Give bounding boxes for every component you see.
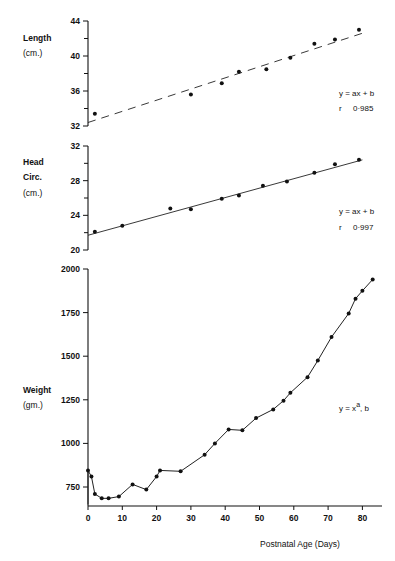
r-value: 0·997 — [353, 223, 374, 232]
x-tick-label: 60 — [289, 513, 299, 523]
x-tick-label: 20 — [152, 513, 162, 523]
length-panel: 32364044Length(cm.)y = ax + br0·985 — [23, 16, 375, 131]
head_circumference-data-point — [357, 158, 361, 162]
weight-data-point — [347, 311, 351, 315]
equation-label: y = ax + b — [339, 207, 375, 216]
y-tick-label: 750 — [66, 482, 80, 492]
y-tick-label: 1500 — [61, 351, 80, 361]
x-tick-label: 80 — [358, 513, 368, 523]
x-axis-title: Postnatal Age (Days) — [260, 539, 340, 549]
length-data-point — [264, 67, 268, 71]
head_circumference-data-point — [120, 224, 124, 228]
y-tick-label: 32 — [71, 141, 81, 151]
y-axis-label: Head — [23, 157, 44, 167]
weight-data-point — [86, 468, 90, 472]
y-axis-label: (gm.) — [23, 400, 43, 410]
length-data-point — [220, 81, 224, 85]
weight-data-point — [371, 277, 375, 281]
y-axis-label: Circ. — [23, 172, 42, 182]
r-label: r — [339, 223, 342, 232]
weight-data-point — [117, 495, 121, 499]
length-data-point — [93, 112, 97, 116]
length-data-point — [312, 42, 316, 46]
weight-data-point — [158, 468, 162, 472]
weight-data-point — [93, 492, 97, 496]
weight-data-point — [155, 475, 159, 479]
y-tick-label: 24 — [71, 210, 81, 220]
x-tick-label: 50 — [255, 513, 265, 523]
length-fit-line — [88, 33, 362, 122]
y-tick-label: 20 — [71, 245, 81, 255]
weight-data-point — [227, 427, 231, 431]
y-tick-label: 2000 — [61, 264, 80, 274]
length-data-point — [333, 37, 337, 41]
y-tick-label: 36 — [71, 86, 81, 96]
x-tick-label: 70 — [323, 513, 333, 523]
r-value: 0·985 — [353, 104, 374, 113]
x-tick-label: 0 — [86, 513, 91, 523]
y-tick-label: 44 — [71, 16, 81, 26]
length-data-point — [288, 56, 292, 60]
weight-data-point — [213, 441, 217, 445]
x-tick-label: 30 — [186, 513, 196, 523]
length-data-point — [189, 93, 193, 97]
weight-data-point — [89, 475, 93, 479]
r-label: r — [339, 104, 342, 113]
equation-label: y = xa, b — [339, 401, 369, 413]
weight-data-point — [271, 407, 275, 411]
y-tick-label: 28 — [71, 176, 81, 186]
y-axis-label: (cm.) — [23, 188, 43, 198]
length-data-point — [237, 70, 241, 74]
head_circumference-data-point — [220, 197, 224, 201]
weight-data-point — [330, 335, 334, 339]
x-tick-label: 10 — [118, 513, 128, 523]
head_circumference-data-point — [312, 171, 316, 175]
head_circumference-data-point — [237, 193, 241, 197]
weight-data-point — [360, 289, 364, 293]
y-tick-label: 32 — [71, 121, 81, 131]
weight-panel: 75010001250150017502000Weight(gm.)y = xa… — [23, 264, 382, 549]
y-axis-label: Weight — [23, 385, 51, 395]
equation-label: y = ax + b — [339, 89, 375, 98]
y-tick-label: 1750 — [61, 308, 80, 318]
weight-data-point — [254, 416, 258, 420]
y-tick-label: 1250 — [61, 395, 80, 405]
weight-data-point — [354, 297, 358, 301]
head_circumference-data-point — [168, 206, 172, 210]
head_circumference-data-point — [93, 230, 97, 234]
head-circumference-panel: 20242832HeadCirc.(cm.)y = ax + br0·997 — [23, 141, 375, 255]
weight-data-point — [203, 453, 207, 457]
weight-data-point — [144, 488, 148, 492]
y-tick-label: 1000 — [61, 438, 80, 448]
head_circumference-data-point — [285, 180, 289, 184]
y-axis-label: Length — [23, 33, 51, 43]
weight-data-point — [179, 469, 183, 473]
length-data-point — [357, 28, 361, 32]
weight-data-point — [282, 399, 286, 403]
weight-data-point — [100, 496, 104, 500]
y-axis-label: (cm.) — [23, 48, 43, 58]
head_circumference-data-point — [189, 207, 193, 211]
weight-data-point — [240, 428, 244, 432]
weight-data-point — [288, 391, 292, 395]
growth-chart: 32364044Length(cm.)y = ax + br0·985 2024… — [0, 0, 395, 561]
weight-data-point — [107, 496, 111, 500]
weight-data-point — [306, 375, 310, 379]
weight-data-point — [316, 359, 320, 363]
head_circumference-data-point — [261, 184, 265, 188]
x-tick-label: 40 — [220, 513, 230, 523]
head_circumference-fit-line — [88, 160, 362, 235]
head_circumference-data-point — [333, 162, 337, 166]
weight-series-line — [88, 279, 373, 504]
weight-data-point — [131, 482, 135, 486]
y-tick-label: 40 — [71, 51, 81, 61]
